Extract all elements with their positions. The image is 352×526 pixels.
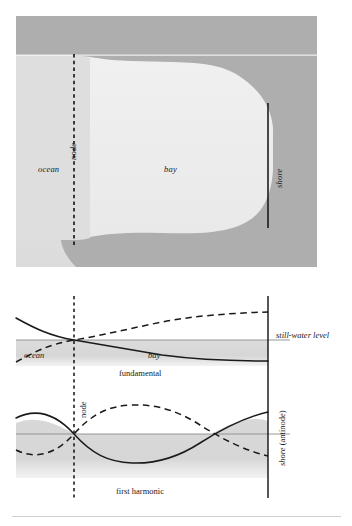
map-top-highlight bbox=[16, 55, 317, 56]
map-panel: ocean bay node shore bbox=[16, 16, 317, 267]
wave-label-antinode-word: (antinode) bbox=[277, 410, 287, 447]
wave-label-node: node bbox=[78, 401, 88, 418]
map-graphic bbox=[16, 16, 317, 267]
wave-panel: ocean bay fundamental first harmonic nod… bbox=[0, 288, 352, 516]
wave-label-bay: bay bbox=[148, 350, 160, 360]
map-label-bay: bay bbox=[164, 164, 177, 174]
map-label-shore: shore bbox=[274, 168, 284, 188]
wave-label-ocean: ocean bbox=[24, 350, 44, 360]
fundamental-water-band bbox=[16, 340, 268, 366]
wave-label-shore-word: shore bbox=[277, 447, 287, 466]
map-ocean-shade bbox=[16, 56, 90, 240]
figure-root: ocean bay node shore bbox=[0, 0, 352, 526]
wave-graphic bbox=[0, 288, 352, 516]
first-harmonic-water-band bbox=[16, 434, 268, 478]
wave-label-first-harmonic: first harmonic bbox=[116, 486, 164, 496]
map-label-node: node bbox=[68, 143, 78, 160]
wave-label-fundamental: fundamental bbox=[119, 368, 161, 378]
figure-bottom-rule bbox=[12, 516, 341, 517]
wave-label-still-water-level: still-water level bbox=[276, 330, 329, 340]
wave-label-shore-antinode: shore (antinode) bbox=[277, 410, 287, 466]
map-label-ocean: ocean bbox=[38, 164, 59, 174]
